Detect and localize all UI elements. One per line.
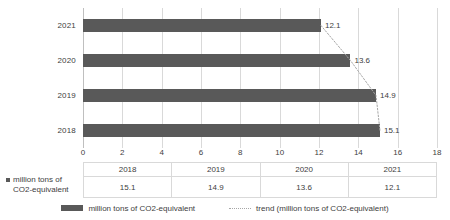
gridline-18 bbox=[437, 8, 438, 148]
value-label-2018: 15.1 bbox=[384, 124, 400, 137]
legend-label-trend-series: trend (million tons of CO2-equivalent) bbox=[256, 204, 389, 213]
data-table-cell-2021: 12.1 bbox=[348, 177, 436, 198]
category-label-2018: 2018 bbox=[18, 126, 76, 135]
data-table-header-2020: 2020 bbox=[260, 163, 348, 177]
value-label-2021: 12.1 bbox=[325, 19, 341, 32]
x-tick-8: 8 bbox=[238, 148, 242, 157]
data-table-cell-2018: 15.1 bbox=[84, 177, 172, 198]
chart-container: 2021202020192018 12.113.614.915.1 024681… bbox=[0, 0, 450, 220]
value-label-2020: 13.6 bbox=[354, 54, 370, 67]
legend-item-bar-series[interactable]: million tons of CO2-equivalent bbox=[61, 204, 195, 213]
x-tick-6: 6 bbox=[199, 148, 203, 157]
x-tick-4: 4 bbox=[159, 148, 163, 157]
data-table-row-header-text: million tons of CO2-equivalent bbox=[13, 175, 69, 195]
row-header-line-2: CO2-equivalent bbox=[13, 185, 69, 195]
legend-item-trend-series[interactable]: trend (million tons of CO2-equivalent) bbox=[229, 204, 389, 213]
x-tick-0: 0 bbox=[81, 148, 85, 157]
x-tick-2: 2 bbox=[120, 148, 124, 157]
data-table-row-header: million tons of CO2-equivalent bbox=[6, 175, 80, 195]
data-table-row: 15.114.913.612.1 bbox=[84, 177, 437, 198]
category-label-2020: 2020 bbox=[18, 56, 76, 65]
category-label-2021: 2021 bbox=[18, 21, 76, 30]
series-color-swatch-icon bbox=[6, 178, 10, 182]
row-header-line-1: million tons of bbox=[13, 175, 69, 185]
x-tick-12: 12 bbox=[315, 148, 324, 157]
x-tick-18: 18 bbox=[433, 148, 442, 157]
legend-label-bar-series: million tons of CO2-equivalent bbox=[88, 204, 195, 213]
data-table-cell-2020: 13.6 bbox=[260, 177, 348, 198]
data-table-header-row: 2018201920202021 bbox=[84, 163, 437, 177]
data-table-cell-2019: 14.9 bbox=[172, 177, 260, 198]
chart-legend: million tons of CO2-equivalent trend (mi… bbox=[0, 201, 450, 215]
bar-swatch-icon bbox=[61, 205, 83, 211]
dotted-line-icon bbox=[229, 208, 251, 209]
category-label-2019: 2019 bbox=[18, 91, 76, 100]
data-table-header-2019: 2019 bbox=[172, 163, 260, 177]
data-table-header-2021: 2021 bbox=[348, 163, 436, 177]
x-axis-tick-labels: 024681012141618 bbox=[83, 148, 437, 162]
bar-value-labels: 12.113.614.915.1 bbox=[83, 8, 437, 148]
x-tick-16: 16 bbox=[393, 148, 402, 157]
x-tick-14: 14 bbox=[354, 148, 363, 157]
data-table-header-2018: 2018 bbox=[84, 163, 172, 177]
plot-area: 12.113.614.915.1 bbox=[83, 8, 437, 148]
data-table: 201820192020202115.114.913.612.1 bbox=[83, 162, 437, 198]
value-label-2019: 14.9 bbox=[380, 89, 396, 102]
x-tick-10: 10 bbox=[275, 148, 284, 157]
